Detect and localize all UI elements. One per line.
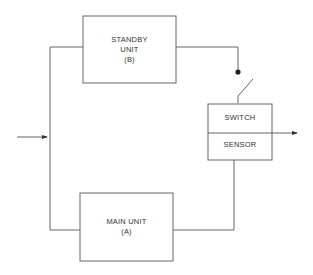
switch-label: SWITCH: [208, 113, 272, 123]
main-unit-label: MAIN UNIT (A): [80, 217, 173, 237]
main-output-line: [173, 160, 234, 230]
contact-dot: [235, 69, 240, 74]
standby-unit-label: STANDBY UNIT (B): [83, 35, 176, 65]
main-label-line1: MAIN UNIT: [80, 217, 173, 227]
main-label-line2: (A): [80, 227, 173, 237]
standby-output-line: [176, 47, 238, 70]
standby-label-line2: UNIT: [83, 45, 176, 55]
sensor-label: SENSOR: [208, 140, 272, 150]
switch-blade: [238, 79, 253, 96]
standby-label-line3: (B): [83, 55, 176, 65]
standby-label-line1: STANDBY: [83, 35, 176, 45]
